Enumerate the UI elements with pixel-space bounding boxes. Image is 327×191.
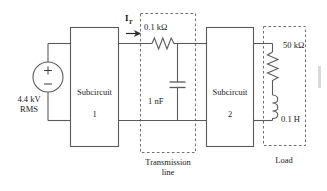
transmission-line-label-line2: line [136,167,200,177]
series-resistor-symbol [152,38,176,49]
shunt-capacitor-value: 1 nF [148,96,163,106]
source-label: 4.4 kV RMS [8,94,50,114]
circuit-diagram: IT 4.4 kV RMS Subcircuit 1 Subcircuit 2 … [0,0,327,191]
source-label-line2: RMS [8,104,50,114]
transmission-line-group-box [141,14,196,153]
series-resistor-value: 0.1 kΩ [144,22,167,32]
subcircuit-2-label-line1: Subcircuit [206,87,254,98]
load-inductor-value: 0.1 H [281,114,300,124]
transmission-line-group-label: Transmission line [136,157,200,177]
subcircuit-1-label-line1: Subcircuit [70,87,119,98]
load-resistor-symbol [268,52,279,83]
load-resistor-value: 50 kΩ [283,40,304,50]
source-label-line1: 4.4 kV [8,94,50,104]
transmission-line-label-line1: Transmission [136,157,200,167]
scan-edge-artifact [318,66,321,88]
subcircuit-1-label-line2: 1 [70,109,119,120]
subcircuit-2-label-line2: 2 [206,109,254,120]
current-subscript: T [129,18,133,25]
subcircuit-1-label: Subcircuit 1 [70,76,119,131]
subcircuit-2-label: Subcircuit 2 [206,76,254,131]
load-inductor-symbol [273,95,278,121]
load-group-label: Load [262,155,306,165]
current-label-IT: IT [125,13,133,25]
